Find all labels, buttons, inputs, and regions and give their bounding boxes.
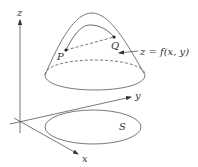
surface-outline [45, 13, 145, 75]
point-q [112, 35, 115, 38]
x-axis-label: x [82, 153, 88, 164]
z-axis-label: z [16, 7, 23, 18]
surface-base-back [45, 60, 145, 75]
region-s-label: S [119, 121, 126, 132]
y-axis [10, 97, 131, 124]
surface-pointer [119, 51, 138, 53]
surface-label: z = f(x, y) [139, 46, 189, 57]
surface-diagram: z y x P Q z = f(x, y) S [0, 0, 198, 167]
curve-on-surface [66, 25, 114, 50]
point-p-label: P [56, 51, 64, 62]
chord-pq [66, 37, 114, 50]
surface-base-front [45, 75, 145, 90]
region-s [45, 110, 141, 144]
point-p [64, 48, 67, 51]
point-q-label: Q [111, 40, 119, 51]
y-axis-label: y [134, 90, 141, 101]
